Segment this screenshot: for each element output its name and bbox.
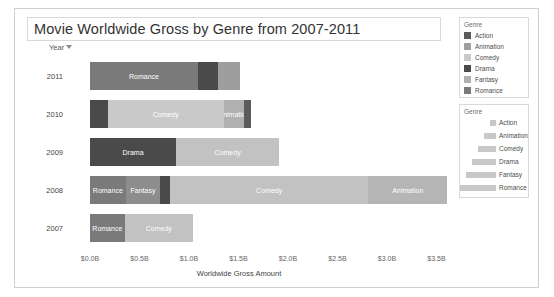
legend-size-bar-wrap	[460, 146, 499, 152]
x-tick-label: $0.0B	[81, 255, 99, 262]
legend-size-bar-icon	[460, 185, 496, 191]
bar-segment-label: Romance	[127, 73, 161, 80]
visualization-frame: Movie Worldwide Gross by Genre from 2007…	[14, 8, 539, 288]
bar-segment[interactable]	[198, 62, 218, 90]
legend-item-label: Comedy	[499, 145, 523, 152]
stacked-bar: RomanceFantasyComedyAnimation	[90, 176, 447, 204]
legend-item-label: Drama	[499, 158, 519, 165]
x-axis: $0.0B$0.5B$1.0B$1.5B$2.0B$2.5B$3.0B$3.5B	[27, 255, 451, 267]
year-tick-label: 2010	[37, 110, 63, 119]
legend-size-bar-icon	[490, 120, 496, 126]
legend-size-item[interactable]: Action	[460, 117, 528, 130]
year-tick-label: 2008	[37, 186, 63, 195]
page-title: Movie Worldwide Gross by Genre from 2007…	[34, 21, 360, 37]
chart-row: 2008RomanceFantasyComedyAnimation	[27, 171, 451, 209]
bar-segment-label: Comedy	[144, 225, 174, 232]
legend-color-item[interactable]: Fantasy	[460, 74, 528, 85]
bar-segment[interactable]	[244, 100, 251, 128]
legend-swatch-icon	[464, 54, 471, 61]
bar-segment[interactable]: Comedy	[108, 100, 224, 128]
chart-row: 2007RomanceComedy	[27, 209, 451, 247]
legend-size-bar-wrap	[460, 133, 499, 139]
x-tick-label: $1.0B	[180, 255, 198, 262]
legend-color-item[interactable]: Animation	[460, 41, 528, 52]
legend-color-item[interactable]: Drama	[460, 63, 528, 74]
bar-segment-label: Romance	[91, 187, 125, 194]
bar-segment-label: Comedy	[254, 187, 284, 194]
bar-segment[interactable]: Romance	[90, 176, 126, 204]
legend-size-bar-wrap	[460, 120, 499, 126]
legend-size-items: ActionAnimationComedyDramaFantasyRomance	[460, 117, 528, 195]
bar-segment-label: Comedy	[213, 149, 243, 156]
legend-swatch-icon	[464, 87, 471, 94]
legend-size-title: Genre	[460, 105, 528, 117]
legend-size-item[interactable]: Drama	[460, 156, 528, 169]
legend-item-label: Drama	[475, 65, 495, 72]
legend-item-label: Romance	[499, 184, 527, 191]
year-axis-header[interactable]: Year	[49, 43, 72, 52]
x-tick-label: $2.5B	[328, 255, 346, 262]
bar-segment[interactable]: Romance	[90, 62, 198, 90]
legend-color-item[interactable]: Romance	[460, 85, 528, 96]
legend-item-label: Romance	[475, 87, 503, 94]
bar-segment[interactable]	[90, 100, 108, 128]
bar-segment-label: Romance	[90, 225, 124, 232]
year-tick-label: 2009	[37, 148, 63, 157]
legend-color-title: Genre	[460, 18, 528, 30]
filter-icon[interactable]	[66, 44, 72, 51]
chart-row: 2009DramaComedy	[27, 133, 451, 171]
bar-segment[interactable]: Drama	[90, 138, 176, 166]
legend-size[interactable]: Genre ActionAnimationComedyDramaFantasyR…	[459, 104, 529, 198]
legend-swatch-icon	[464, 43, 471, 50]
legend-item-label: Fantasy	[475, 76, 498, 83]
bar-segment[interactable]: Romance	[90, 214, 125, 242]
legend-color[interactable]: Genre ActionAnimationComedyDramaFantasyR…	[459, 17, 529, 98]
x-tick-label: $1.5B	[229, 255, 247, 262]
legend-color-item[interactable]: Action	[460, 30, 528, 41]
legend-item-label: Animation	[475, 43, 504, 50]
bar-segment-label: Comedy	[151, 111, 181, 118]
year-tick-label: 2011	[37, 72, 63, 81]
chart-row: 2011Romance	[27, 57, 451, 95]
plot-area: 2011Romance2010ComedyAnimation2009DramaC…	[27, 57, 451, 253]
legend-color-item[interactable]: Comedy	[460, 52, 528, 63]
legend-item-label: Action	[499, 119, 517, 126]
bar-segment[interactable]: Comedy	[125, 214, 193, 242]
x-tick-label: $3.0B	[378, 255, 396, 262]
legend-item-label: Fantasy	[499, 171, 522, 178]
legend-size-bar-icon	[478, 146, 496, 152]
legend-size-bar-wrap	[460, 185, 499, 191]
bar-segment[interactable]: Fantasy	[126, 176, 161, 204]
x-tick-label: $3.5B	[427, 255, 445, 262]
legend-swatch-icon	[464, 32, 471, 39]
legend-size-item[interactable]: Romance	[460, 182, 528, 195]
year-tick-label: 2007	[37, 224, 63, 233]
legend-item-label: Action	[475, 32, 493, 39]
legend-size-bar-wrap	[460, 159, 499, 165]
bar-segment-label: Animation	[224, 111, 245, 118]
legend-swatch-icon	[464, 65, 471, 72]
bar-segment[interactable]: Animation	[224, 100, 245, 128]
legend-size-bar-wrap	[460, 172, 499, 178]
bar-segment-label: Drama	[121, 149, 146, 156]
bar-segment[interactable]	[160, 176, 170, 204]
x-axis-title: Worldwide Gross Amount	[27, 269, 451, 278]
legend-size-item[interactable]: Comedy	[460, 143, 528, 156]
x-tick-label: $0.5B	[130, 255, 148, 262]
bar-segment[interactable]	[218, 62, 241, 90]
year-axis-label: Year	[49, 43, 64, 52]
bar-segment-label: Animation	[390, 187, 425, 194]
chart-title-box[interactable]: Movie Worldwide Gross by Genre from 2007…	[27, 17, 441, 41]
bar-segment[interactable]: Comedy	[176, 138, 279, 166]
bar-segment[interactable]: Animation	[368, 176, 447, 204]
bar-segment-label: Fantasy	[128, 187, 157, 194]
legend-size-item[interactable]: Animation	[460, 130, 528, 143]
legend-item-label: Comedy	[475, 54, 499, 61]
plot-panel: Year 2011Romance2010ComedyAnimation2009D…	[27, 43, 451, 281]
chart-row: 2010ComedyAnimation	[27, 95, 451, 133]
legend-size-item[interactable]: Fantasy	[460, 169, 528, 182]
legend-swatch-icon	[464, 76, 471, 83]
bar-segment[interactable]: Comedy	[170, 176, 368, 204]
stacked-bar: Romance	[90, 62, 240, 90]
legend-item-label: Animation	[499, 132, 528, 139]
